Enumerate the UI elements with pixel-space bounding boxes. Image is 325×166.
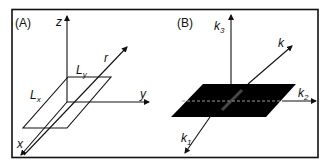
k-axis [248,46,292,84]
k1-axis-label: k1 [181,131,191,147]
figure-frame [12,10,318,158]
panel-b: (B) k3 k2 k k1 [171,15,316,153]
panel-b-label: (B) [177,16,193,30]
panel-a-label: (A) [15,16,31,30]
k3-axis-label: k3 [214,19,225,35]
panel-a: (A) z y x r Ly Lx [15,15,149,155]
z-axis-label: z [55,15,62,29]
lx-label: Lx [30,88,42,104]
r-axis-label: r [104,51,109,65]
k1-axis [185,117,210,153]
y-axis-label: y [139,87,147,101]
k2-axis-label: k2 [298,86,309,102]
ly-label: Ly [76,63,88,79]
k-axis-label: k [278,36,285,50]
x-axis-label: x [16,137,24,151]
figure: (A) z y x r Ly Lx (B) k3 [0,0,325,166]
